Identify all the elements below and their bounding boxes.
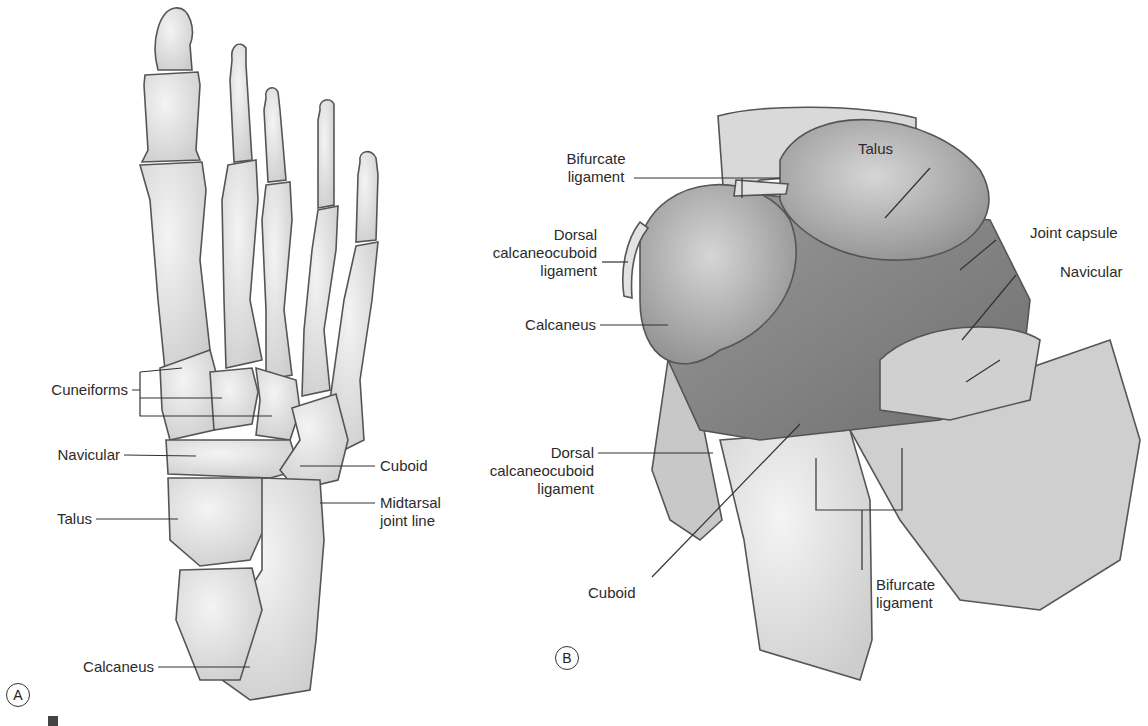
label-dorsal-cc-top-1: Dorsal — [480, 226, 597, 244]
panel-letter-b: B — [555, 646, 579, 670]
foot-skeleton-panel-a — [140, 8, 378, 700]
lateral-cuneiform — [256, 368, 300, 440]
label-talus-b: Talus — [858, 140, 893, 158]
hallux-proximal-phalanx — [142, 72, 200, 162]
label-bifurcate-top-2: ligament — [560, 168, 632, 186]
label-talus-a: Talus — [10, 510, 92, 528]
third-toe — [264, 88, 286, 182]
fourth-toe — [318, 100, 334, 208]
label-midtarsal-line1: Midtarsal — [380, 494, 441, 512]
fifth-toe — [356, 152, 378, 242]
caption-stub — [48, 716, 58, 726]
label-cuneiforms: Cuneiforms — [20, 381, 128, 399]
first-metatarsal — [140, 162, 210, 370]
label-midtarsal-line2: joint line — [380, 512, 435, 530]
navicular-bone — [166, 440, 300, 478]
hallux-distal-phalanx — [155, 8, 192, 70]
talus-bone — [168, 478, 268, 566]
label-joint-capsule: Joint capsule — [1030, 224, 1118, 242]
label-navicular-b: Navicular — [1060, 263, 1123, 281]
anatomy-illustration — [0, 0, 1148, 726]
label-dorsal-cc-top-3: ligament — [480, 262, 597, 280]
cuboid-body-b — [720, 430, 872, 680]
label-dorsal-cc-top-2: calcaneocuboid — [480, 244, 597, 262]
second-toe — [230, 44, 252, 162]
intermediate-cuneiform — [210, 368, 258, 430]
label-dorsal-cc-bottom-3: ligament — [480, 480, 594, 498]
label-dorsal-cc-bottom-1: Dorsal — [480, 444, 594, 462]
fourth-metatarsal — [302, 206, 338, 396]
label-bifurcate-bottom-2: ligament — [876, 594, 933, 612]
label-bifurcate-top-1: Bifurcate — [560, 150, 632, 168]
label-bifurcate-bottom-1: Bifurcate — [876, 576, 935, 594]
label-cuboid-a: Cuboid — [380, 457, 428, 475]
label-navicular-a: Navicular — [10, 446, 120, 464]
second-metatarsal — [222, 160, 262, 368]
panel-letter-a: A — [6, 683, 30, 707]
label-dorsal-cc-bottom-2: calcaneocuboid — [480, 462, 594, 480]
third-metatarsal — [262, 182, 292, 380]
label-cuboid-b: Cuboid — [588, 584, 636, 602]
label-calcaneus-a: Calcaneus — [40, 658, 154, 676]
label-calcaneus-b: Calcaneus — [480, 316, 596, 334]
